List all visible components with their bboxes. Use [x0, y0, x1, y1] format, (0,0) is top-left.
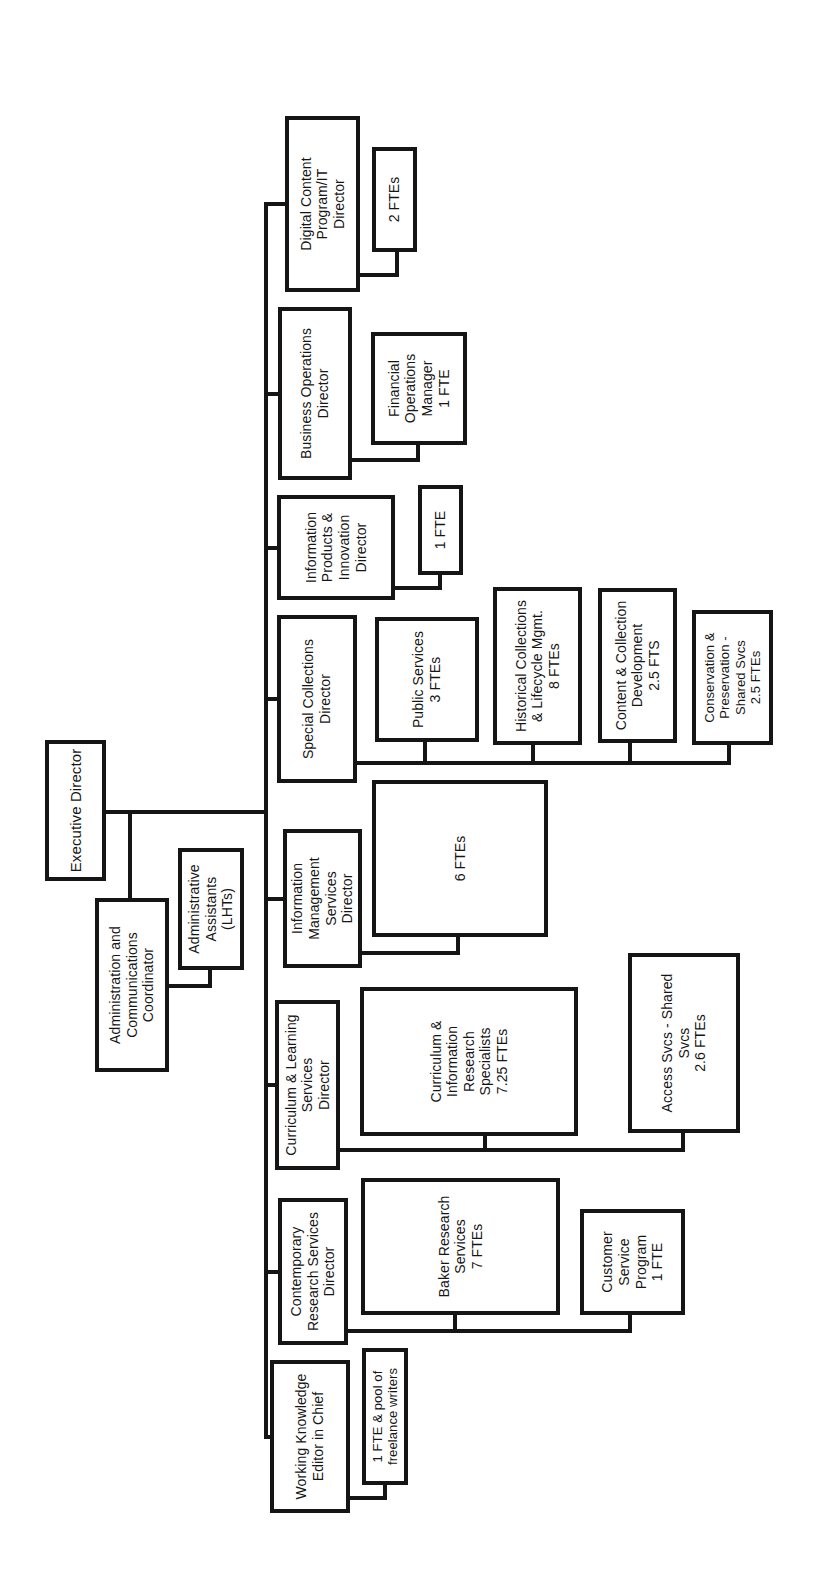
- connector-special-shelf-conservation: [727, 743, 731, 765]
- node-business-ops-label: Business Operations Director: [298, 328, 331, 459]
- connector-info-products-drop: [393, 586, 442, 590]
- node-access-svcs: Access Svcs - Shared Svcs 2.6 FTEs: [628, 953, 740, 1133]
- connector-business-shelf: [416, 443, 420, 462]
- node-curriculum-specialists: Curriculum & Information Research Specia…: [360, 987, 578, 1136]
- node-public-services-label: Public Services 3 FTEs: [410, 631, 443, 728]
- connector-business-drop: [350, 458, 420, 462]
- node-executive-director-label: Executive Director: [67, 749, 85, 873]
- node-freelance-pool-label: 1 FTE & pool of freelance writers: [370, 1368, 401, 1465]
- connector-special-shelf-content: [628, 741, 632, 765]
- connector-wk-drop: [348, 1496, 387, 1500]
- connector-admin-coordinator: [128, 810, 132, 898]
- connector-admin-assistants-drop: [167, 984, 212, 988]
- connector-curriculum-shelf-access: [681, 1131, 685, 1152]
- node-two-ftes-label: 2 FTEs: [386, 177, 403, 223]
- node-contemporary-research: Contemporary Research Services Director: [278, 1198, 348, 1345]
- node-one-fte-label: 1 FTE: [432, 511, 449, 550]
- connector-digital-shelf: [395, 250, 399, 277]
- node-curriculum-learning-label: Curriculum & Learning Services Director: [283, 1014, 333, 1155]
- node-info-products-label: Information Products & Innovation Direct…: [303, 512, 369, 583]
- stub-info-mgmt: [264, 897, 285, 901]
- node-public-services: Public Services 3 FTEs: [375, 617, 479, 742]
- node-contemporary-research-label: Contemporary Research Services Director: [288, 1212, 338, 1331]
- node-business-ops: Business Operations Director: [278, 307, 352, 480]
- node-financial-ops: Financial Operations Manager 1 FTE: [371, 332, 467, 445]
- node-curriculum-learning: Curriculum & Learning Services Director: [275, 1000, 340, 1170]
- connector-special-shelf-historical: [531, 743, 535, 765]
- node-special-collections-label: Special Collections Director: [300, 639, 333, 759]
- connector-info-mgmt-drop: [360, 951, 460, 955]
- stub-digital-content: [264, 202, 287, 206]
- node-two-ftes: 2 FTEs: [372, 147, 417, 252]
- node-baker-research: Baker Research Services 7 FTEs: [361, 1178, 560, 1315]
- node-six-ftes: 6 FTEs: [372, 780, 548, 937]
- node-content-collection-label: Content & Collection Development 2.5 FTS: [613, 601, 663, 731]
- connector-special-shelf-public: [423, 740, 427, 765]
- node-six-ftes-label: 6 FTEs: [452, 836, 469, 882]
- node-digital-content: Digital Content Program/IT Director: [285, 116, 360, 292]
- node-conservation: Conservation & Preservation - Shared Svc…: [692, 610, 773, 745]
- node-curriculum-specialists-label: Curriculum & Information Research Specia…: [428, 1020, 511, 1102]
- connector-contemporary-drop: [346, 1329, 632, 1333]
- connector-spine: [264, 202, 268, 1439]
- node-info-products: Information Products & Innovation Direct…: [277, 495, 395, 600]
- node-historical-collections-label: Historical Collections & Lifecycle Mgmt.…: [513, 600, 563, 732]
- node-admin-assistants-label: Administrative Assistants (LHTs): [186, 864, 236, 953]
- node-content-collection: Content & Collection Development 2.5 FTS: [598, 588, 677, 743]
- connector-contemporary-shelf-baker: [453, 1313, 457, 1333]
- node-admin-coordinator-label: Administration and Communications Coordi…: [107, 926, 157, 1044]
- node-executive-director: Executive Director: [45, 740, 106, 881]
- connector-curriculum-shelf-specialists: [483, 1134, 487, 1152]
- connector-admin-assistants-shelf: [208, 968, 212, 988]
- connector-digital-drop: [358, 273, 399, 277]
- connector-contemporary-shelf-customer: [628, 1313, 632, 1333]
- node-financial-ops-label: Financial Operations Manager 1 FTE: [386, 354, 452, 423]
- node-conservation-label: Conservation & Preservation - Shared Svc…: [702, 632, 763, 722]
- connector-curriculum-drop: [338, 1148, 685, 1152]
- node-customer-service: Customer Service Program 1 FTE: [580, 1209, 685, 1315]
- node-freelance-pool: 1 FTE & pool of freelance writers: [362, 1348, 408, 1485]
- node-digital-content-label: Digital Content Program/IT Director: [298, 157, 348, 250]
- node-working-knowledge: Working Knowledge Editor in Chief: [270, 1360, 350, 1513]
- node-working-knowledge-label: Working Knowledge Editor in Chief: [293, 1374, 326, 1500]
- connector-special-drop: [355, 761, 731, 765]
- node-baker-research-label: Baker Research Services 7 FTEs: [436, 1196, 486, 1298]
- org-chart: Executive Director Administration and Co…: [0, 0, 829, 1583]
- node-info-mgmt: Information Management Services Director: [283, 829, 362, 968]
- node-customer-service-label: Customer Service Program 1 FTE: [599, 1231, 665, 1292]
- node-access-svcs-label: Access Svcs - Shared Svcs 2.6 FTEs: [659, 974, 709, 1113]
- connector-wk-shelf: [383, 1483, 387, 1500]
- node-admin-coordinator: Administration and Communications Coordi…: [95, 898, 169, 1072]
- connector-info-mgmt-shelf: [456, 935, 460, 955]
- node-historical-collections: Historical Collections & Lifecycle Mgmt.…: [493, 587, 582, 745]
- node-one-fte: 1 FTE: [418, 485, 463, 575]
- node-info-mgmt-label: Information Management Services Director: [289, 857, 355, 940]
- node-special-collections: Special Collections Director: [277, 615, 357, 783]
- connector-info-products-shelf: [438, 573, 442, 590]
- node-admin-assistants: Administrative Assistants (LHTs): [178, 848, 244, 970]
